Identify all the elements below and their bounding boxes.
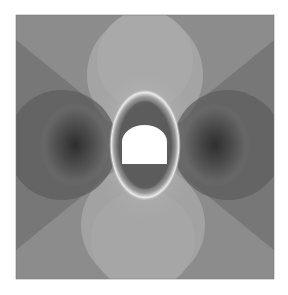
tunnel-opening [122,125,167,164]
contour-plot [0,0,288,295]
contour-figure [0,0,288,295]
plot-area [7,10,283,290]
